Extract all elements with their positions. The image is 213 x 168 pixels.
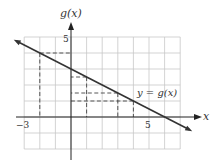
curve-label: y = g(x): [136, 87, 177, 98]
x-tick-label-5: 5: [145, 120, 151, 130]
function-graph: g(x) x −3 5 5 y = g(x): [0, 0, 213, 168]
line-right-arrow-icon: [185, 126, 192, 132]
x-axis-label: x: [203, 110, 210, 123]
y-tick-label-5: 5: [63, 34, 69, 44]
line-left-arrow-icon: [14, 40, 21, 46]
y-axis-label: g(x): [60, 7, 82, 20]
y-axis-arrow-icon: [68, 22, 74, 30]
x-tick-label-neg3: −3: [16, 120, 30, 130]
x-axis-arrow-icon: [194, 114, 202, 120]
